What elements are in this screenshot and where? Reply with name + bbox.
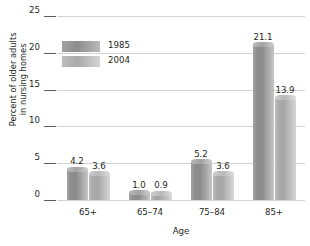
bar-value-label: 0.9 xyxy=(145,180,178,190)
bar-body xyxy=(253,45,274,200)
legend-swatch xyxy=(62,56,100,67)
legend-label: 1985 xyxy=(108,40,130,50)
x-axis-category-label: 65–74 xyxy=(119,207,181,217)
y-axis-tick-label: 5 xyxy=(12,152,40,162)
y-axis-tick-label: 0 xyxy=(12,189,40,199)
bar-value-label: 21.1 xyxy=(247,32,280,42)
bar-1985-65+ xyxy=(67,169,88,200)
bar-body xyxy=(89,174,110,200)
bar-2004-75–84 xyxy=(213,174,234,200)
gridline xyxy=(57,16,305,17)
x-axis-title: Age xyxy=(57,226,305,236)
bar-top-cap xyxy=(129,190,150,195)
bar-1985-85+ xyxy=(253,45,274,200)
x-axis-category-label: 75–84 xyxy=(181,207,243,217)
y-axis-tick xyxy=(44,200,56,201)
y-axis-tick xyxy=(44,53,56,54)
bar-top-cap xyxy=(253,42,274,47)
legend-swatch xyxy=(62,41,100,52)
y-axis-tick-label: 20 xyxy=(12,42,40,52)
bar-value-label: 5.2 xyxy=(185,149,218,159)
gridline xyxy=(57,200,305,201)
bar-top-cap xyxy=(89,171,110,176)
bar-value-label: 13.9 xyxy=(269,85,302,95)
y-axis-tick xyxy=(44,90,56,91)
bar-value-label: 3.6 xyxy=(207,161,240,171)
y-axis-tick xyxy=(44,163,56,164)
y-axis-tick-label: 25 xyxy=(12,5,40,15)
bar-2004-65–74 xyxy=(151,193,172,200)
x-axis-category-label: 65+ xyxy=(57,207,119,217)
bar-body xyxy=(213,174,234,200)
bar-top-cap xyxy=(151,191,172,196)
bar-2004-65+ xyxy=(89,174,110,200)
bar-top-cap xyxy=(275,95,296,100)
bar-body xyxy=(275,98,296,200)
bar-value-label: 3.6 xyxy=(83,161,116,171)
bar-1985-65–74 xyxy=(129,193,150,200)
bar-top-cap xyxy=(213,171,234,176)
y-axis-tick-label: 10 xyxy=(12,115,40,125)
bar-body xyxy=(67,169,88,200)
y-axis-tick xyxy=(44,16,56,17)
y-axis-tick-label: 15 xyxy=(12,79,40,89)
bar-2004-85+ xyxy=(275,98,296,200)
legend-label: 2004 xyxy=(108,55,130,65)
x-axis-category-label: 85+ xyxy=(243,207,305,217)
y-axis-tick xyxy=(44,126,56,127)
nursing-home-bar-chart: Percent of older adults in nursing homes… xyxy=(0,0,310,246)
